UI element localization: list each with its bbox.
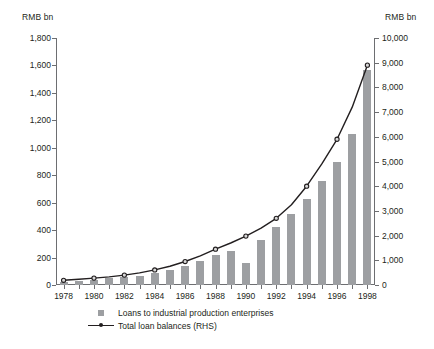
legend-line-marker-icon — [84, 322, 118, 329]
line-marker — [335, 137, 339, 141]
line-marker — [153, 268, 157, 272]
x-tick-label: 1998 — [347, 291, 387, 301]
x-tick-mark — [109, 285, 110, 289]
right-tick-label: 4,000 — [382, 181, 403, 191]
right-tick-mark — [375, 186, 379, 187]
left-tick-label: 1,600 — [30, 60, 51, 70]
right-tick-mark — [375, 236, 379, 237]
x-tick-mark — [261, 285, 262, 289]
chart-figure: RMB bn RMB bn 02004006008001,0001,2001,4… — [0, 0, 434, 349]
right-tick-mark — [375, 87, 379, 88]
left-tick-label: 800 — [37, 170, 51, 180]
x-tick-mark — [170, 285, 171, 289]
x-tick-mark — [124, 285, 125, 289]
line-marker — [244, 234, 248, 238]
line-marker — [305, 184, 309, 188]
legend-item-line: Total loan balances (RHS) — [84, 319, 364, 332]
right-tick-label: 3,000 — [382, 206, 403, 216]
x-tick-mark — [322, 285, 323, 289]
x-tick-mark — [216, 285, 217, 289]
left-tick-label: 1,800 — [30, 33, 51, 43]
right-tick-mark — [375, 38, 379, 39]
x-tick-mark — [307, 285, 308, 289]
chart-legend: Loans to industrial production enterpris… — [84, 306, 364, 332]
left-tick-label: 1,000 — [30, 143, 51, 153]
right-tick-mark — [375, 211, 379, 212]
left-tick-label: 200 — [37, 253, 51, 263]
x-tick-mark — [337, 285, 338, 289]
right-tick-mark — [375, 260, 379, 261]
legend-label-bars: Loans to industrial production enterpris… — [118, 308, 273, 318]
left-tick-mark — [52, 285, 56, 286]
x-tick-mark — [94, 285, 95, 289]
right-tick-mark — [375, 162, 379, 163]
right-tick-label: 9,000 — [382, 58, 403, 68]
line-marker — [92, 276, 96, 280]
left-tick-label: 1,200 — [30, 115, 51, 125]
x-tick-mark — [200, 285, 201, 289]
left-tick-label: 0 — [46, 280, 51, 290]
line-marker — [274, 216, 278, 220]
plot-area: 02004006008001,0001,2001,4001,6001,800 0… — [56, 38, 375, 285]
line-marker — [122, 273, 126, 277]
x-tick-mark — [64, 285, 65, 289]
x-tick-mark — [276, 285, 277, 289]
legend-swatch-bar-icon — [84, 310, 118, 316]
line-marker — [213, 247, 217, 251]
left-tick-label: 1,400 — [30, 88, 51, 98]
right-tick-label: 0 — [382, 280, 387, 290]
left-tick-label: 400 — [37, 225, 51, 235]
right-tick-label: 7,000 — [382, 107, 403, 117]
right-tick-label: 5,000 — [382, 157, 403, 167]
x-tick-mark — [140, 285, 141, 289]
legend-label-line: Total loan balances (RHS) — [118, 321, 217, 331]
right-tick-mark — [375, 285, 379, 286]
right-axis-unit-label: RMB bn — [385, 12, 416, 22]
line-marker — [62, 278, 66, 282]
right-tick-label: 2,000 — [382, 231, 403, 241]
left-axis-unit-label: RMB bn — [22, 12, 53, 22]
right-tick-mark — [375, 137, 379, 138]
line-marker — [183, 259, 187, 263]
right-tick-mark — [375, 63, 379, 64]
right-tick-label: 6,000 — [382, 132, 403, 142]
x-tick-mark — [185, 285, 186, 289]
line-series-total-loan-balances — [56, 38, 375, 285]
x-tick-mark — [246, 285, 247, 289]
left-tick-label: 600 — [37, 198, 51, 208]
right-tick-label: 1,000 — [382, 255, 403, 265]
x-tick-mark — [155, 285, 156, 289]
line-marker — [365, 63, 369, 67]
legend-item-bars: Loans to industrial production enterpris… — [84, 306, 364, 319]
right-tick-mark — [375, 112, 379, 113]
x-tick-mark — [291, 285, 292, 289]
right-tick-label: 10,000 — [382, 33, 408, 43]
right-tick-label: 8,000 — [382, 82, 403, 92]
x-tick-mark — [79, 285, 80, 289]
x-tick-mark — [231, 285, 232, 289]
x-tick-mark — [352, 285, 353, 289]
x-tick-mark — [367, 285, 368, 289]
